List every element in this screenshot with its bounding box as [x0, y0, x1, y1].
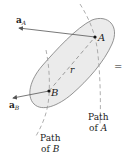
- r-label: r: [70, 65, 75, 75]
- point-a-label: A: [97, 32, 105, 43]
- rigid-body-diagram: A B r aA aB Path of A Path of B =: [0, 0, 126, 159]
- path-a-label-line2: of A: [89, 123, 108, 133]
- accel-a-label: aA: [16, 15, 27, 26]
- path-a-label-line1: Path: [88, 112, 109, 122]
- path-b-label-line1: Path: [40, 133, 61, 143]
- point-a-dot: [93, 35, 96, 38]
- path-b-label-line2: of B: [41, 144, 60, 154]
- point-b-label: B: [50, 87, 58, 98]
- accel-b-label: aB: [9, 100, 20, 111]
- equals-sign: =: [114, 61, 122, 72]
